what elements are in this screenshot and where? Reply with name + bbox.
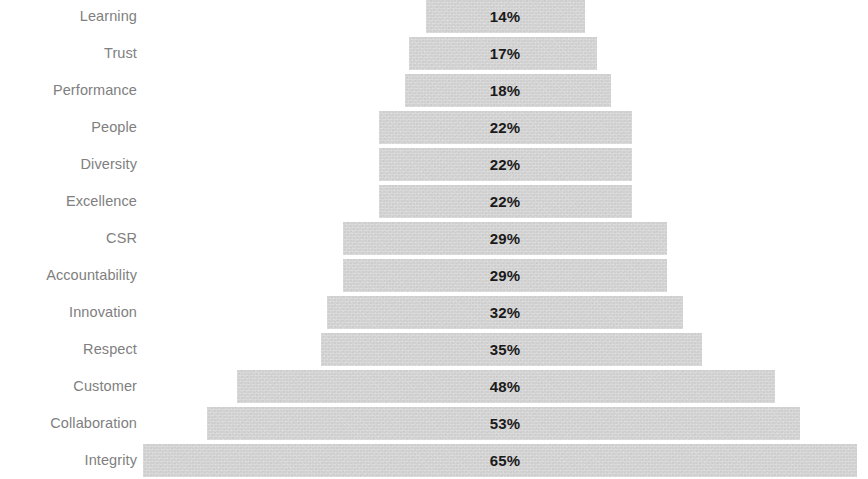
bar-value-label: 29% bbox=[343, 259, 667, 292]
bar-value-label: 48% bbox=[237, 370, 774, 403]
bar-value-label: 22% bbox=[379, 111, 632, 144]
value-bar[interactable]: 18% bbox=[405, 74, 611, 107]
category-label: Innovation bbox=[0, 296, 137, 329]
value-bar[interactable]: 17% bbox=[409, 37, 597, 70]
value-bar[interactable]: 53% bbox=[207, 407, 800, 440]
value-bar[interactable]: 35% bbox=[321, 333, 702, 366]
value-bar[interactable]: 65% bbox=[143, 444, 857, 477]
value-bar[interactable]: 22% bbox=[379, 185, 632, 218]
bar-value-label: 32% bbox=[327, 296, 683, 329]
category-label: People bbox=[0, 111, 137, 144]
value-bar[interactable]: 22% bbox=[379, 148, 632, 181]
bar-value-label: 18% bbox=[405, 74, 608, 107]
category-label: Learning bbox=[0, 0, 137, 33]
category-label: Diversity bbox=[0, 148, 137, 181]
category-label: Collaboration bbox=[0, 407, 137, 440]
value-bar[interactable]: 22% bbox=[379, 111, 632, 144]
category-label: Respect bbox=[0, 333, 137, 366]
value-bar[interactable]: 29% bbox=[343, 259, 667, 292]
bar-value-label: 29% bbox=[343, 222, 667, 255]
category-label: Customer bbox=[0, 370, 137, 403]
category-label: Accountability bbox=[0, 259, 137, 292]
bar-value-label: 22% bbox=[379, 148, 632, 181]
bar-value-label: 14% bbox=[426, 0, 585, 33]
bar-value-label: 53% bbox=[209, 407, 801, 440]
bar-value-label: 65% bbox=[148, 444, 857, 477]
value-bar[interactable]: 29% bbox=[343, 222, 667, 255]
chart-plot-area: Learning14%Trust17%Performance18%People2… bbox=[0, 0, 868, 479]
category-label: Excellence bbox=[0, 185, 137, 218]
category-label: Integrity bbox=[0, 444, 137, 477]
value-bar[interactable]: 14% bbox=[426, 0, 585, 33]
bar-value-label: 22% bbox=[379, 185, 632, 218]
category-label: Trust bbox=[0, 37, 137, 70]
value-bar[interactable]: 32% bbox=[327, 296, 683, 329]
pyramid-bar-chart: Learning14%Trust17%Performance18%People2… bbox=[0, 0, 868, 479]
bar-value-label: 35% bbox=[321, 333, 696, 366]
category-label: Performance bbox=[0, 74, 137, 107]
value-bar[interactable]: 48% bbox=[237, 370, 775, 403]
category-label: CSR bbox=[0, 222, 137, 255]
bar-value-label: 17% bbox=[411, 37, 597, 70]
